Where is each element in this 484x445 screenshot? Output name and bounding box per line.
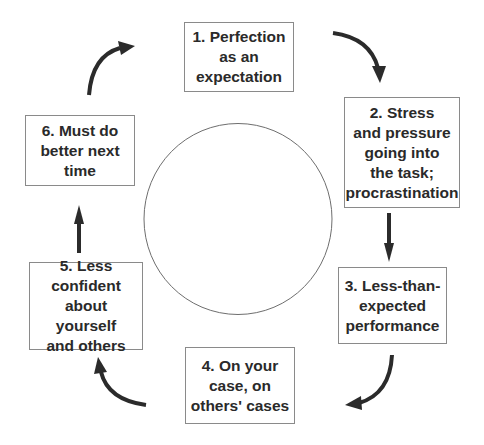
- step-6-box: 6. Must do better next time: [25, 115, 135, 186]
- step-3-box: 3. Less-than- expected performance: [338, 267, 447, 344]
- arrow-6-to-1: [89, 41, 135, 95]
- step-4-label: 4. On your case, on others' cases: [191, 356, 289, 416]
- step-1-box: 1. Perfection as an expectation: [184, 22, 294, 92]
- step-2-box: 2. Stress and pressure going into the ta…: [344, 97, 460, 208]
- arrow-4-to-5: [94, 357, 146, 405]
- arrow-5-to-6: [74, 205, 84, 253]
- step-2-label: 2. Stress and pressure going into the ta…: [346, 103, 459, 203]
- step-3-label: 3. Less-than- expected performance: [345, 276, 441, 336]
- arrow-1-to-2: [333, 33, 386, 83]
- arrow-2-to-3: [384, 213, 394, 262]
- step-1-label: 1. Perfection as an expectation: [192, 27, 285, 87]
- step-5-box: 5. Less confident about yourself and oth…: [29, 262, 143, 350]
- step-6-label: 6. Must do better next time: [40, 121, 119, 181]
- step-5-label: 5. Less confident about yourself and oth…: [33, 256, 139, 356]
- step-4-box: 4. On your case, on others' cases: [185, 347, 295, 424]
- center-circle: [144, 124, 332, 315]
- cycle-diagram: 1. Perfection as an expectation 2. Stres…: [0, 0, 484, 445]
- arrow-3-to-4: [345, 355, 392, 410]
